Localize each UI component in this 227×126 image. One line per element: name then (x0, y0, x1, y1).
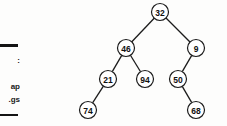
node-label-9: 9 (194, 44, 199, 54)
tree-edge-46-94 (130, 55, 140, 72)
tree-node-9[interactable]: 9 (188, 40, 205, 57)
node-label-74: 74 (83, 106, 93, 116)
tree-edge-32-46 (132, 18, 154, 42)
tree-node-46[interactable]: 46 (118, 40, 135, 57)
tree-edge-21-74 (93, 86, 104, 103)
tree-node-32[interactable]: 32 (152, 4, 169, 21)
tree-edge-46-21 (112, 55, 121, 71)
tree-node-layer: 324692194507468 (80, 4, 205, 119)
tree-edge-50-68 (182, 86, 191, 102)
node-label-94: 94 (140, 75, 150, 85)
tree-node-94[interactable]: 94 (137, 71, 154, 88)
tree-edge-9-50 (182, 55, 191, 71)
node-label-21: 21 (103, 75, 113, 85)
diagram-page: : ap gs. 324692194507468 (0, 0, 227, 126)
node-label-50: 50 (173, 75, 183, 85)
binary-tree-diagram: 324692194507468 (0, 0, 227, 126)
node-label-32: 32 (155, 8, 165, 18)
node-label-68: 68 (191, 106, 201, 116)
tree-edge-32-9 (166, 18, 190, 42)
tree-node-74[interactable]: 74 (80, 102, 97, 119)
tree-edge-layer (93, 18, 192, 103)
node-label-46: 46 (121, 44, 131, 54)
tree-node-68[interactable]: 68 (188, 102, 205, 119)
tree-node-21[interactable]: 21 (100, 71, 117, 88)
tree-node-50[interactable]: 50 (170, 71, 187, 88)
